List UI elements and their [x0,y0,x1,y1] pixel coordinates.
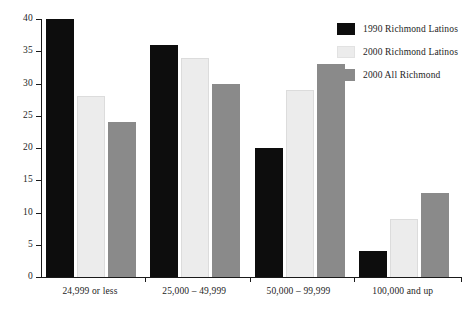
y-axis-tick-label: 20 [0,142,33,152]
bar [286,90,314,277]
legend-item: 2000 All Richmond [337,65,458,85]
y-axis-tick-label: 35 [0,45,33,55]
legend-item: 1990 Richmond Latinos [337,19,458,39]
bar [46,19,74,277]
bar-group [255,19,345,277]
x-axis-tick [250,277,251,282]
y-axis-tick-label: 5 [0,239,33,249]
x-axis-tick [145,277,146,282]
x-axis-category-label: 100,000 and up [333,286,467,296]
bar [212,84,240,278]
bar-group [46,19,136,277]
legend-swatch-icon [337,69,355,81]
bar-chart: 0510152025303540 24,999 or less25,000 – … [0,0,467,311]
bar-group [150,19,240,277]
y-axis-tick-label: 15 [0,174,33,184]
legend-label: 2000 All Richmond [363,70,441,80]
bar [181,58,209,277]
bar [255,148,283,277]
bar [317,64,345,277]
bar [390,219,418,277]
y-axis-tick-label: 30 [0,78,33,88]
legend-label: 2000 Richmond Latinos [363,47,458,57]
bar [421,193,449,277]
bar [108,122,136,277]
y-axis-tick [36,277,42,278]
legend-label: 1990 Richmond Latinos [363,24,458,34]
legend-swatch-icon [337,23,355,35]
bar [77,96,105,277]
bar [150,45,178,277]
x-axis-tick [461,277,462,282]
x-axis-tick [354,277,355,282]
y-axis-tick-label: 40 [0,13,33,23]
y-axis-tick-label: 25 [0,110,33,120]
x-axis-line [41,277,461,278]
legend-item: 2000 Richmond Latinos [337,42,458,62]
chart-legend: 1990 Richmond Latinos2000 Richmond Latin… [337,19,458,88]
y-axis-tick-label: 10 [0,207,33,217]
y-axis-tick-label: 0 [0,271,33,281]
bar [359,251,387,277]
legend-swatch-icon [337,46,355,58]
